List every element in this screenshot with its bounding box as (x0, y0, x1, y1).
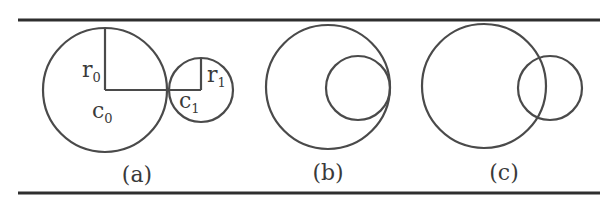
big-circle (422, 24, 546, 148)
panel-c: (c) (422, 24, 582, 185)
circle-relations-figure: r0 c0 r1 c1 (a) (b) (c) (0, 0, 616, 204)
panel-a: r0 c0 r1 c1 (a) (43, 28, 233, 187)
caption-c: (c) (489, 160, 519, 185)
label-c1: c1 (179, 88, 200, 116)
label-r0: r0 (82, 57, 101, 85)
caption-b: (b) (312, 160, 343, 185)
small-circle-internally-tangent (326, 56, 390, 120)
label-c0: c0 (92, 98, 113, 126)
small-circle-intersecting (518, 56, 582, 120)
panel-b: (b) (266, 25, 390, 185)
big-circle (266, 25, 390, 149)
caption-a: (a) (122, 162, 152, 187)
